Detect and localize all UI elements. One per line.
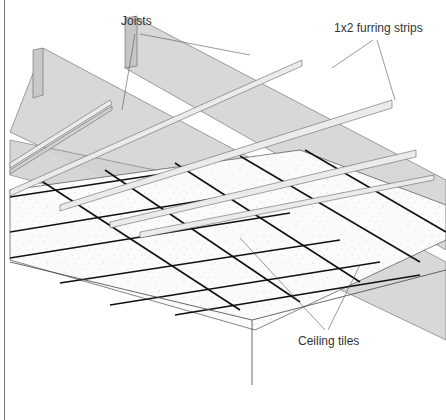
ceiling-illustration [0, 0, 446, 420]
leader-furring-2 [377, 40, 395, 100]
label-ceiling-tiles: Ceiling tiles [298, 334, 359, 348]
leader-furring-1 [332, 40, 373, 68]
label-joists: Joists [121, 14, 152, 28]
label-furring-strips: 1x2 furring strips [334, 21, 423, 35]
joist-1-end [33, 48, 43, 98]
